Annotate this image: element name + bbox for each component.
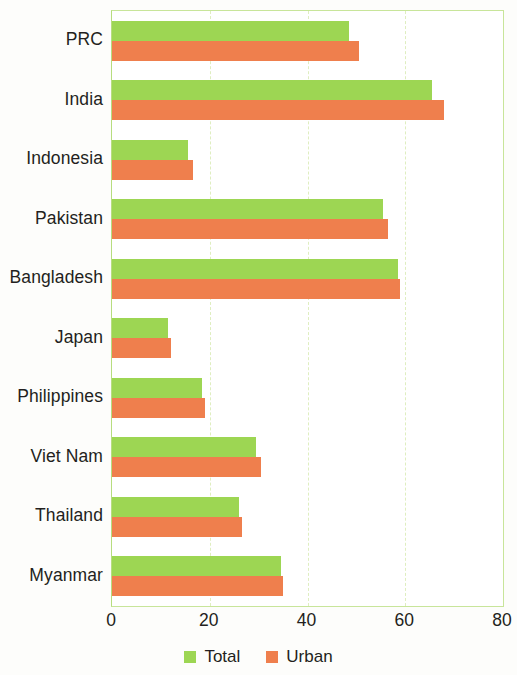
y-axis-label-bangladesh: Bangladesh — [10, 248, 103, 308]
y-axis-category-labels: PRC India Indonesia Pakistan Bangladesh … — [0, 10, 103, 605]
bar-group — [112, 130, 503, 190]
y-axis-label-indonesia: Indonesia — [26, 129, 103, 189]
legend-label-urban: Urban — [286, 648, 332, 665]
bar-viet-nam-urban — [112, 457, 261, 477]
bar-japan-urban — [112, 338, 171, 358]
y-axis-label-viet-nam: Viet Nam — [31, 427, 103, 487]
y-axis-label-prc: PRC — [66, 10, 103, 70]
y-axis-label-thailand: Thailand — [35, 486, 103, 546]
bar-bangladesh-total — [112, 259, 398, 279]
bar-bangladesh-urban — [112, 279, 400, 299]
bar-japan-total — [112, 318, 168, 338]
y-axis-label-pakistan: Pakistan — [35, 189, 103, 249]
y-axis-label-myanmar: Myanmar — [29, 546, 103, 606]
bar-philippines-urban — [112, 398, 205, 418]
bar-group — [112, 309, 503, 369]
legend-swatch-total-icon — [184, 651, 196, 663]
x-axis-tick-20: 20 — [199, 612, 218, 630]
bar-thailand-urban — [112, 517, 242, 537]
chart-legend: Total Urban — [0, 648, 517, 665]
legend-item-urban: Urban — [266, 648, 332, 665]
bar-viet-nam-total — [112, 437, 256, 457]
bar-group — [112, 368, 503, 428]
bar-philippines-total — [112, 378, 202, 398]
bar-prc-urban — [112, 41, 359, 61]
bar-group — [112, 190, 503, 250]
bar-myanmar-total — [112, 556, 281, 576]
bar-myanmar-urban — [112, 576, 283, 596]
bar-group — [112, 71, 503, 131]
x-axis: 020406080 — [111, 612, 502, 640]
x-axis-tick-0: 0 — [106, 612, 116, 630]
y-axis-label-philippines: Philippines — [17, 367, 103, 427]
bar-pakistan-total — [112, 199, 383, 219]
bar-india-total — [112, 80, 432, 100]
bar-prc-total — [112, 21, 349, 41]
y-axis-label-japan: Japan — [55, 308, 103, 368]
bar-group — [112, 11, 503, 71]
bar-india-urban — [112, 100, 444, 120]
bar-group — [112, 249, 503, 309]
x-axis-tick-60: 60 — [395, 612, 414, 630]
bar-group — [112, 428, 503, 488]
plot-area — [111, 10, 504, 607]
bar-group — [112, 547, 503, 607]
bar-chart: PRC India Indonesia Pakistan Bangladesh … — [0, 0, 517, 675]
bar-group — [112, 487, 503, 547]
bar-pakistan-urban — [112, 219, 388, 239]
bar-rows — [112, 11, 503, 606]
bar-indonesia-urban — [112, 160, 193, 180]
y-axis-label-india: India — [65, 70, 103, 130]
bar-indonesia-total — [112, 140, 188, 160]
legend-swatch-urban-icon — [266, 651, 278, 663]
x-axis-tick-80: 80 — [492, 612, 511, 630]
legend-item-total: Total — [184, 648, 240, 665]
bar-thailand-total — [112, 497, 239, 517]
legend-label-total: Total — [204, 648, 240, 665]
x-axis-tick-40: 40 — [297, 612, 316, 630]
